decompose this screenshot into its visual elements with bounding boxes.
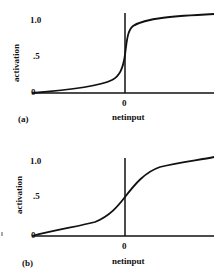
panel-b-curve [32, 157, 214, 236]
panel-b-label: (b) [22, 259, 33, 268]
panel-b-plot [32, 157, 214, 236]
panel-a-xtick-0: 0 [122, 99, 127, 108]
panel-b-ytick-1: 1.0 [30, 157, 41, 166]
panel-b-xlabel: netinput [112, 257, 145, 266]
panel-a-ytick-0: 0 [31, 88, 36, 97]
panel-a-label: (a) [18, 115, 29, 124]
panel-b-ytick-half: .5 [33, 192, 40, 201]
panel-a-ytick-half: .5 [33, 52, 40, 61]
panel-a-plot [32, 13, 214, 93]
panel-b-ylabel: activation [14, 176, 24, 214]
panel-a-ylabel: activation [11, 44, 21, 82]
panel-b-xtick-0: 0 [122, 242, 127, 251]
panel-a-ytick-1: 1.0 [30, 16, 41, 25]
panel-b-ytick-0: 0 [31, 231, 36, 240]
panel-a-curve [32, 14, 214, 93]
panel-a-xlabel: netinput [112, 113, 145, 122]
